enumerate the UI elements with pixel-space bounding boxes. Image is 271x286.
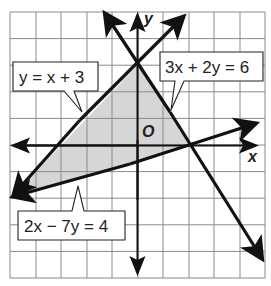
svg-text:y = x + 3: y = x + 3 (19, 68, 84, 87)
label-y-equals-x-plus-3: y = x + 3 (13, 62, 98, 112)
label-3x-plus-2y-equals-6: 3x + 2y = 6 (160, 52, 263, 110)
line-3x-plus-2y-equals-6-lower (170, 112, 261, 257)
label-2x-minus-7y-equals-4: 2x − 7y = 4 (18, 186, 125, 240)
coordinate-graph: y x O y = x + 3 3x + 2y = 6 2x − 7y = 4 (0, 0, 271, 286)
x-axis-label: x (247, 148, 258, 165)
y-axis-label: y (143, 10, 154, 27)
svg-text:2x − 7y = 4: 2x − 7y = 4 (24, 217, 108, 236)
svg-text:3x + 2y = 6: 3x + 2y = 6 (165, 58, 249, 77)
origin-label: O (142, 123, 155, 140)
